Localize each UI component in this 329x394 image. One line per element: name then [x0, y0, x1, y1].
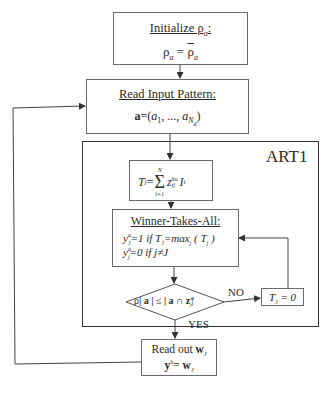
edge-label-no: NO — [228, 286, 244, 298]
readout-title: Read out wJ — [142, 343, 216, 357]
reset-box: TJ = 0 — [261, 288, 304, 306]
activation-equation: Tj = N Σ i=1 z bu ij Ii — [138, 167, 186, 197]
wta-title: Winner-Takes-All: — [113, 214, 238, 229]
winner-takes-all-box: Winner-Takes-All: yaJ=1 if TJ=maxj ( Tj … — [112, 209, 239, 267]
art1-label: ART1 — [266, 147, 307, 167]
initialize-box: Initialize ρa: ρa = ρa — [113, 12, 248, 65]
edge-label-yes: YES — [188, 318, 209, 330]
vigilance-test-condition: ρ| a | ≤ | a ∩ ztdJ| — [134, 295, 193, 308]
input-pattern-equation: a=(a1, ..., aNd) — [87, 109, 248, 127]
initialize-equation: ρa = ρa — [114, 44, 247, 62]
activation-box: Tj = N Σ i=1 z bu ij Ii — [129, 160, 213, 201]
readout-equation: yb= wJ — [142, 359, 216, 373]
readout-box: Read out wJ yb= wJ — [141, 339, 217, 376]
read-input-box: Read Input Pattern: a=(a1, ..., aNd) — [86, 79, 249, 134]
reset-equation: TJ = 0 — [262, 289, 303, 310]
read-input-title: Read Input Pattern: — [87, 87, 248, 102]
initialize-title: Initialize ρa: — [114, 21, 247, 38]
wta-rule-winner: yaJ=1 if TJ=maxj ( Tj ) — [123, 232, 215, 246]
wta-rule-losers: yaj=0 if j≠J — [123, 246, 168, 260]
